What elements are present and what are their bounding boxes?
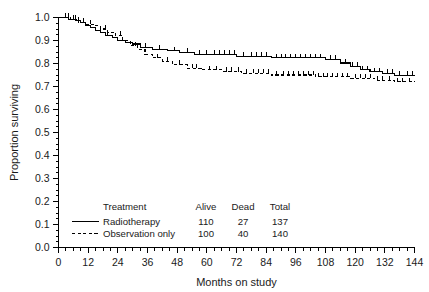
legend-row-total: 140 <box>272 228 288 239</box>
x-axis-tick-label: 36 <box>142 256 154 268</box>
legend-row-treatment: Radiotherapy <box>103 216 160 227</box>
y-axis-tick-label: 0.9 <box>35 34 50 46</box>
censor-marks-observation <box>68 13 409 82</box>
x-axis-tick-label: 60 <box>201 256 213 268</box>
x-axis-tick-label: 84 <box>260 256 272 268</box>
x-axis-tick-label: 24 <box>112 256 124 268</box>
x-axis-tick-label: 108 <box>317 256 335 268</box>
x-axis-tick-label: 120 <box>346 256 364 268</box>
survival-curve-radiotherapy <box>59 18 415 76</box>
legend-header-total: Total <box>270 201 290 212</box>
y-axis-tick-label: 0.6 <box>35 103 50 115</box>
y-axis-tick-label: 0.2 <box>35 195 50 207</box>
legend-row-treatment: Observation only <box>103 228 175 239</box>
legend-row-total: 137 <box>272 216 288 227</box>
y-axis-tick-label: 0.4 <box>35 149 50 161</box>
legend-header-treatment: Treatment <box>103 201 147 212</box>
legend-row-alive: 110 <box>198 216 213 227</box>
x-axis-tick-label: 132 <box>376 256 394 268</box>
x-axis-tick-label: 48 <box>171 256 183 268</box>
legend-header-alive: Alive <box>196 201 217 212</box>
x-axis-tick-label: 12 <box>82 256 94 268</box>
y-axis-tick-label: 0.3 <box>35 172 50 184</box>
kaplan-meier-figure: 012243648607284961081201321440.00.10.20.… <box>0 0 429 292</box>
legend-row-dead: 27 <box>238 216 249 227</box>
y-axis-tick-label: 0.8 <box>35 57 50 69</box>
y-axis-tick-label: 0.5 <box>35 126 50 138</box>
legend-header-dead: Dead <box>232 201 255 212</box>
x-axis-tick-label: 96 <box>290 256 302 268</box>
x-axis-tick-label: 72 <box>231 256 243 268</box>
survival-curve-observation <box>59 18 415 82</box>
y-axis-title: Proportion surviving <box>8 84 20 181</box>
y-axis-tick-label: 0.0 <box>35 241 50 253</box>
y-axis-tick-label: 0.7 <box>35 80 50 92</box>
x-axis-tick-label: 0 <box>56 256 62 268</box>
x-axis-tick-label: 144 <box>406 256 424 268</box>
legend-row-alive: 100 <box>198 228 214 239</box>
x-axis-title: Months on study <box>196 276 277 288</box>
survival-chart: 012243648607284961081201321440.00.10.20.… <box>0 0 429 292</box>
legend-row-dead: 40 <box>238 228 249 239</box>
y-axis-tick-label: 0.1 <box>35 218 50 230</box>
y-axis-tick-label: 1.0 <box>35 11 50 23</box>
